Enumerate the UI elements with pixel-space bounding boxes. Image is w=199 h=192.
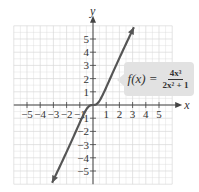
formula-lhs: f(x) = [128, 71, 158, 87]
svg-text:4: 4 [143, 108, 149, 120]
svg-text:4: 4 [84, 46, 90, 58]
function-label-box: f(x) = 4x³ 2x² + 1 [124, 62, 194, 96]
axes [14, 16, 182, 184]
svg-text:1: 1 [84, 86, 90, 98]
formula-numerator: 4x³ [168, 68, 184, 80]
svg-text:5: 5 [156, 108, 162, 120]
svg-text:−3: −3 [77, 139, 89, 151]
svg-text:−3: −3 [48, 108, 60, 120]
y-axis-label: y [89, 4, 96, 18]
svg-text:2: 2 [117, 108, 123, 120]
formula-denominator: 2x² + 1 [161, 80, 191, 91]
svg-text:−2: −2 [77, 125, 89, 137]
svg-text:−2: −2 [61, 108, 73, 120]
svg-text:3: 3 [84, 59, 90, 71]
svg-text:−5: −5 [77, 165, 89, 177]
function-graph: −5−4−3−2−112345−5−4−3−2−112345 x y [0, 0, 199, 192]
svg-text:2: 2 [84, 73, 90, 85]
svg-text:5: 5 [84, 33, 90, 45]
svg-text:3: 3 [130, 108, 136, 120]
svg-text:1: 1 [103, 108, 109, 120]
svg-text:−4: −4 [34, 108, 46, 120]
svg-text:−5: −5 [21, 108, 33, 120]
svg-text:−4: −4 [77, 152, 89, 164]
formula-fraction: 4x³ 2x² + 1 [161, 68, 191, 91]
x-axis-label: x [183, 98, 190, 112]
